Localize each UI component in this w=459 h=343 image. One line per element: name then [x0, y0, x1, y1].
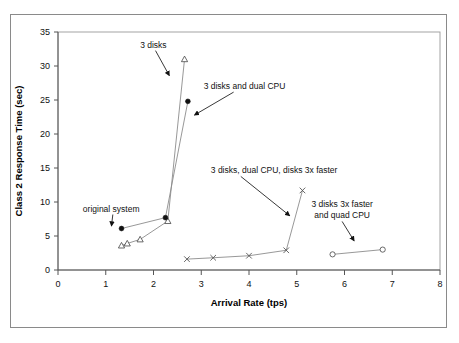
annotation-label-2: 3 disks and dual CPU	[204, 81, 286, 91]
marker-1-3	[137, 236, 143, 242]
series-line-1	[122, 59, 185, 245]
x-tick-label-2: 2	[151, 279, 156, 289]
marker-2-3	[185, 99, 190, 104]
x-tick-label-1: 1	[103, 279, 108, 289]
marker-2-1	[119, 226, 124, 231]
x-axis: 012345678	[55, 270, 442, 289]
annotation-label-1: 3 disks	[140, 40, 166, 50]
annotation-1: 3 disks	[140, 40, 169, 76]
y-tick-label-20: 20	[40, 129, 50, 139]
y-tick-label-0: 0	[45, 265, 50, 275]
marker-1-5	[181, 56, 187, 62]
y-tick-label-25: 25	[40, 95, 50, 105]
x-tick-label-8: 8	[437, 279, 442, 289]
y-tick-label-15: 15	[40, 163, 50, 173]
annotation-arrow-5	[111, 215, 112, 226]
annotation-label-5: original system	[83, 204, 140, 214]
x-tick-label-3: 3	[199, 279, 204, 289]
annotation-arrow-1	[156, 51, 170, 76]
x-tick-label-0: 0	[55, 279, 60, 289]
x-axis-title: Arrival Rate (tps)	[211, 297, 288, 308]
series-4	[330, 247, 385, 257]
annotation-5: original system	[83, 204, 140, 226]
x-tick-label-4: 4	[246, 279, 251, 289]
series-1	[118, 56, 187, 248]
marker-3-5	[300, 188, 306, 194]
x-tick-label-7: 7	[390, 279, 395, 289]
y-tick-label-35: 35	[40, 27, 50, 37]
marker-4-2	[380, 247, 385, 252]
annotation-group: 3 disks3 disks and dual CPU3 disks, dual…	[83, 40, 373, 241]
marker-4-1	[330, 252, 335, 257]
annotation-arrow-4	[342, 221, 354, 240]
series-3	[184, 188, 305, 262]
annotation-arrow-2	[195, 92, 234, 115]
x-tick-label-6: 6	[342, 279, 347, 289]
x-tick-label-5: 5	[294, 279, 299, 289]
series-line-4	[333, 250, 383, 255]
annotation-2: 3 disks and dual CPU	[195, 81, 286, 115]
y-axis-title: Class 2 Response Time (sec)	[13, 86, 24, 217]
marker-2-2	[163, 215, 168, 220]
y-tick-label-30: 30	[40, 61, 50, 71]
annotation-arrow-3	[241, 176, 290, 215]
annotation-label-3: 3 disks, dual CPU, disks 3x faster	[211, 165, 338, 175]
response-time-chart: 05101520253035 012345678 3 disks3 disks …	[0, 0, 459, 343]
annotation-4: 3 disks 3x fasterand quad CPU	[311, 199, 373, 240]
y-tick-label-10: 10	[40, 197, 50, 207]
y-axis: 05101520253035	[40, 27, 58, 275]
y-tick-label-5: 5	[45, 231, 50, 241]
annotation-label-4: 3 disks 3x fasterand quad CPU	[311, 199, 373, 220]
plot-area-border	[58, 32, 440, 270]
